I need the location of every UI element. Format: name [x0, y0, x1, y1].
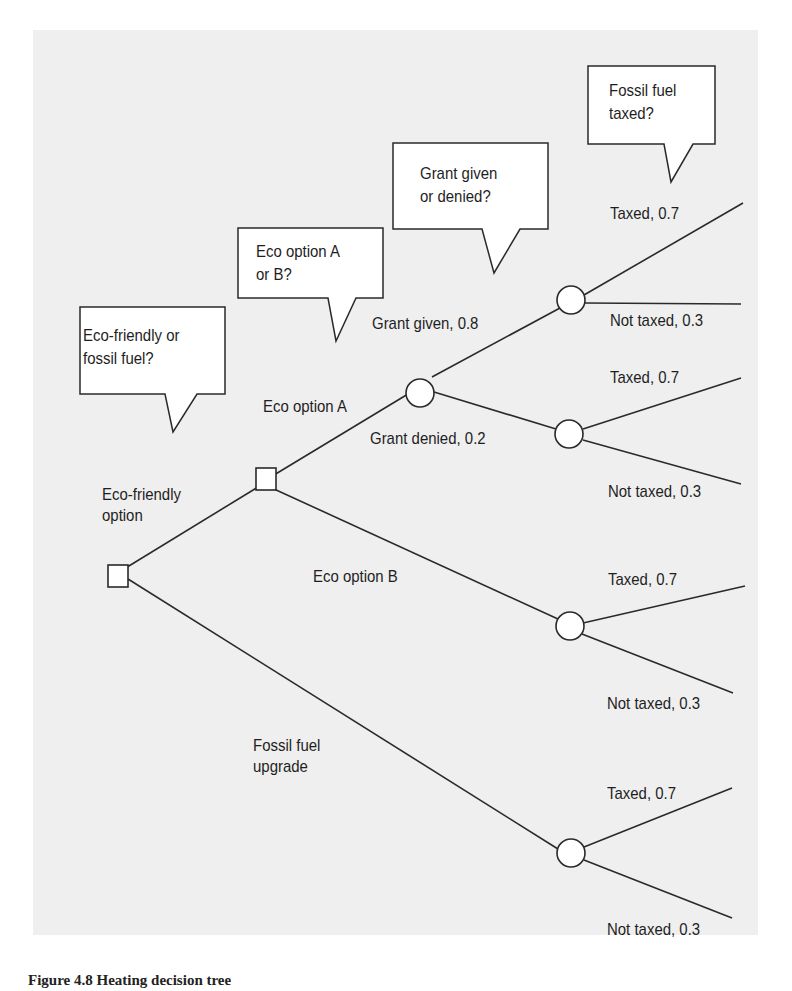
callout-q3-text: Grant given or denied? — [420, 162, 497, 208]
branch-label-eco-friendly: Eco-friendly option — [102, 484, 181, 526]
callout-q1-text: Eco-friendly or fossil fuel? — [83, 324, 179, 370]
chance-node-tax-fossil[interactable] — [557, 839, 585, 867]
callout-q2-text: Eco option A or B? — [256, 240, 340, 286]
callout-q3-line1: Grant given — [420, 162, 497, 185]
chance-node-tax-given[interactable] — [557, 286, 585, 314]
branch-label-eco-friendly-line1: Eco-friendly — [102, 484, 181, 505]
decision-node-eco[interactable] — [256, 468, 276, 490]
chance-node-tax-denied[interactable] — [555, 420, 583, 448]
branch-label-eco-friendly-line2: option — [102, 505, 181, 526]
chance-node-grant[interactable] — [406, 379, 434, 407]
callout-q4-text: Fossil fuel taxed? — [609, 79, 676, 125]
branch-label-grant-denied: Grant denied, 0.2 — [370, 428, 486, 449]
branch-label-fossil-upgrade-line1: Fossil fuel — [253, 735, 320, 756]
callout-q4-line2: taxed? — [609, 102, 676, 125]
callout-q1-line1: Eco-friendly or — [83, 324, 179, 347]
callout-q3-line2: or denied? — [420, 185, 497, 208]
outcome-label-denied-taxed: Taxed, 0.7 — [610, 367, 679, 388]
callout-q1-line2: fossil fuel? — [83, 347, 179, 370]
branch-label-fossil-upgrade-line2: upgrade — [253, 756, 320, 777]
figure-caption: Figure 4.8 Heating decision tree — [28, 972, 231, 991]
callout-q2-line2: or B? — [256, 263, 340, 286]
outcome-label-b-taxed: Taxed, 0.7 — [608, 569, 677, 590]
outcome-label-given-not-taxed: Not taxed, 0.3 — [610, 310, 703, 331]
outcome-label-fossil-not-taxed: Not taxed, 0.3 — [607, 919, 700, 940]
decision-node-root[interactable] — [108, 565, 128, 587]
outcome-label-denied-not-taxed: Not taxed, 0.3 — [608, 481, 701, 502]
branch-label-grant-given: Grant given, 0.8 — [372, 313, 478, 334]
callout-q4-line1: Fossil fuel — [609, 79, 676, 102]
branch-label-eco-b: Eco option B — [313, 566, 398, 587]
outcome-label-given-taxed: Taxed, 0.7 — [610, 203, 679, 224]
branch-label-fossil-upgrade: Fossil fuel upgrade — [253, 735, 320, 777]
outcome-label-b-not-taxed: Not taxed, 0.3 — [607, 693, 700, 714]
outcome-label-fossil-taxed: Taxed, 0.7 — [607, 783, 676, 804]
branch-label-eco-a: Eco option A — [263, 396, 347, 417]
chance-node-tax-b[interactable] — [556, 612, 584, 640]
callout-q2-line1: Eco option A — [256, 240, 340, 263]
